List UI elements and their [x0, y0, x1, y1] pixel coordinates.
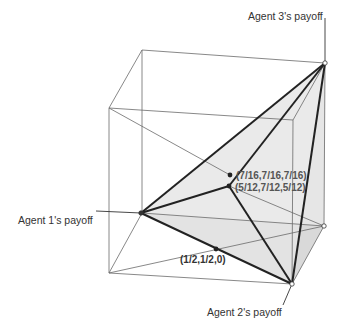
vertex-agent1	[139, 211, 143, 215]
point-label-5-12: (5/12,7/12,5/12)	[235, 183, 306, 193]
point-label-half: (1/2,1/2,0)	[180, 255, 226, 265]
vertex-back	[322, 224, 326, 228]
payoff-cube-diagram	[0, 0, 340, 324]
axis-label-agent2: Agent 2's payoff	[207, 307, 282, 318]
vertex-agent3	[323, 61, 327, 65]
axis-agent2	[283, 284, 292, 305]
point-label-7-16: (7/16,7/16,7/16)	[236, 171, 307, 181]
point-5-12	[227, 184, 232, 189]
axis-label-agent3: Agent 3's payoff	[248, 11, 323, 22]
vertex-agent2	[290, 282, 294, 286]
point-7-16	[228, 173, 233, 178]
point-half-half-zero	[214, 247, 219, 252]
axis-agent1	[96, 211, 141, 213]
axis-label-agent1: Agent 1's payoff	[18, 215, 93, 226]
